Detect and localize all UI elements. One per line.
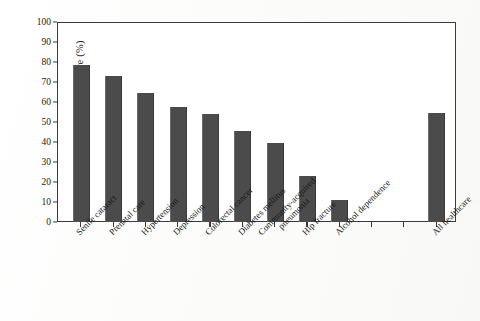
y-tick-label: 60 (17, 97, 57, 107)
x-tick-mark (371, 222, 372, 227)
y-tick-mark (53, 141, 58, 142)
y-tick-mark (53, 61, 58, 62)
y-tick-label: 40 (17, 137, 57, 147)
y-tick-label: 70 (17, 77, 57, 87)
y-tick-mark (53, 121, 58, 122)
y-tick-mark (53, 41, 58, 42)
y-tick-label: 30 (17, 157, 57, 167)
y-tick-label: 10 (17, 197, 57, 207)
bar (73, 65, 90, 222)
y-tick-mark (53, 221, 58, 222)
figure-container: Receipt of recommended care (%) 10090807… (0, 0, 480, 321)
y-tick-label: 90 (17, 37, 57, 47)
bar (428, 113, 445, 222)
y-tick-mark (53, 161, 58, 162)
y-tick-label: 50 (17, 117, 57, 127)
y-tick-label: 80 (17, 57, 57, 67)
y-tick-mark (53, 101, 58, 102)
plot-area: Receipt of recommended care (%) 10090807… (57, 22, 456, 222)
y-tick-label: 20 (17, 177, 57, 187)
y-tick-mark (53, 201, 58, 202)
y-tick-label: 0 (17, 217, 57, 227)
y-tick-label: 100 (17, 17, 57, 27)
y-tick-mark (53, 181, 58, 182)
x-tick-mark (403, 222, 404, 227)
y-tick-mark (53, 81, 58, 82)
y-tick-mark (53, 21, 58, 22)
